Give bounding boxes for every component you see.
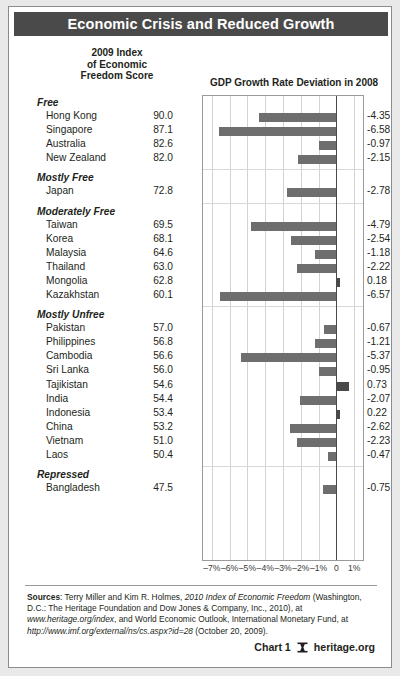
freedom-score-value: 90.0 [105,110,173,121]
group-separator [203,203,363,204]
deviation-value: -2.07 [367,393,392,404]
deviation-value: -0.95 [367,364,392,375]
country-name: Singapore [46,124,92,135]
score-header-line-2: of Economic [61,59,173,71]
sources-text-3: , and World Economic Outlook, Internatio… [114,614,348,624]
country-name: Australia [46,138,86,149]
gridline-neg4 [265,96,266,560]
country-name: China [46,421,73,432]
deviation-value: -6.58 [367,124,392,135]
bar [251,222,336,231]
freedom-score-value: 51.0 [105,435,173,446]
group-separator [203,306,363,307]
bar [219,127,336,136]
freedom-score-value: 72.8 [105,185,173,196]
bar [259,113,336,122]
x-tick-label: –1% [310,563,327,573]
group-heading: Moderately Free [37,206,115,217]
country-name: Korea [46,233,73,244]
country-name: India [46,393,68,404]
bar [298,155,336,164]
freedom-score-value: 56.8 [105,336,173,347]
deviation-value: -2.23 [367,435,392,446]
freedom-score-value: 82.0 [105,152,173,163]
country-name: Taiwan [46,219,78,230]
gdp-column-header: GDP Growth Rate Deviation in 2008 [199,77,389,88]
freedom-score-value: 64.6 [105,247,173,258]
sources-italic-3: http://www.imf.org/external/ns/cs.aspx?i… [27,626,193,636]
country-name: Mongolia [46,275,87,286]
bar [291,236,336,245]
bar [336,382,349,391]
sources-text-4: (October 20, 2009). [193,626,268,636]
freedom-score-value: 53.4 [105,407,173,418]
deviation-value: -2.15 [367,152,392,163]
page-title: Economic Crisis and Reduced Growth [68,16,335,32]
freedom-score-value: 47.5 [105,482,173,493]
freedom-score-value: 68.1 [105,233,173,244]
group-heading: Mostly Free [37,172,94,183]
freedom-score-value: 62.8 [105,275,173,286]
deviation-value: -0.75 [367,482,392,493]
bar [297,438,337,447]
bar [290,424,337,433]
sources-note: Sources: Terry Miller and Kim R. Holmes,… [27,592,377,637]
footer-divider [25,585,377,586]
score-column-header: 2009 Index of Economic Freedom Score [61,47,173,82]
bar [319,141,336,150]
country-name: Thailand [46,261,85,272]
country-name: Cambodia [46,350,92,361]
x-tick-label: 1% [348,563,360,573]
freedom-score-value: 60.1 [105,289,173,300]
group-heading: Repressed [37,469,89,480]
bar [315,339,337,348]
heritage-foundation-logo-icon [297,642,308,653]
country-name: Hong Kong [46,110,97,121]
sources-label: Sources [27,592,60,602]
bar [287,188,336,197]
deviation-value: -5.37 [367,350,392,361]
bar [297,264,336,273]
country-name: Philippines [46,336,95,347]
deviation-value: -1.18 [367,247,392,258]
sources-text-1: : Terry Miller and Kim R. Holmes, [60,592,185,602]
freedom-score-value: 54.4 [105,393,173,404]
deviation-value: 0.73 [367,379,392,390]
sources-italic-2: www.heritage.org/index [27,614,114,624]
sources-italic-1: 2010 Index of Economic Freedom [185,592,311,602]
deviation-value: -1.21 [367,336,392,347]
deviation-value: -2.22 [367,261,392,272]
deviation-value: -0.67 [367,322,392,333]
freedom-score-value: 87.1 [105,124,173,135]
chart-page: Economic Crisis and Reduced Growth 2009 … [0,0,400,676]
country-name: Kazakhstan [46,289,99,300]
bar [324,325,336,334]
gridline-neg1 [319,96,320,560]
group-heading: Mostly Unfree [37,309,104,320]
freedom-score-value: 54.6 [105,379,173,390]
x-axis-tick-labels: –7%–6%–5%–4%–3%–2%–1%01% [202,563,364,577]
bar [315,250,336,259]
country-name: Bangladesh [46,482,100,493]
gridline-neg2 [301,96,302,560]
chart-title-bar: Economic Crisis and Reduced Growth [14,12,388,36]
chart-plot-area [202,95,364,561]
gridline-neg3 [283,96,284,560]
gridline-neg6 [230,96,231,560]
country-name: New Zealand [46,152,106,163]
group-heading: Free [37,97,59,108]
bar [319,367,336,376]
gridline-neg5 [247,96,248,560]
freedom-score-value: 56.6 [105,350,173,361]
x-tick-label: –4% [257,563,274,573]
bar [241,353,336,362]
gridline-neg7 [212,96,213,560]
deviation-value: 0.18 [367,275,392,286]
bar [323,485,336,494]
deviation-value: -2.54 [367,233,392,244]
deviation-value: -6.57 [367,289,392,300]
freedom-score-value: 50.4 [105,449,173,460]
freedom-score-value: 57.0 [105,322,173,333]
chart-number: Chart 1 [254,641,291,653]
freedom-score-value: 53.2 [105,421,173,432]
